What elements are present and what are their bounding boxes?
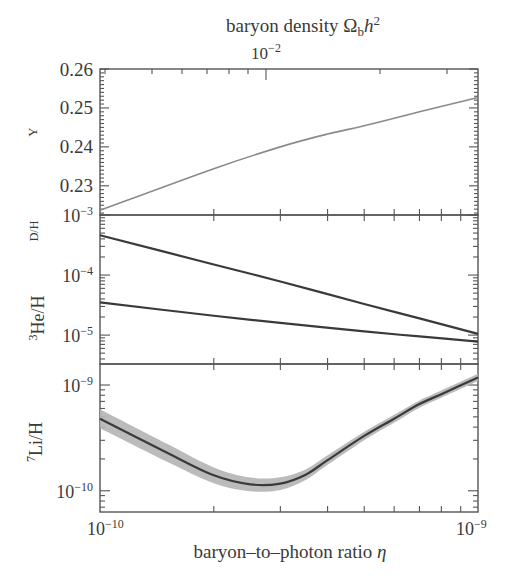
ytick-label: 10−4: [62, 264, 93, 286]
y-axis-label-deuterium: D/H: [27, 220, 41, 241]
xtick-label: 10−9: [456, 517, 487, 539]
y-axis-label-lithium7: 7Li/H: [24, 422, 46, 462]
ytick-label: 10−9: [62, 374, 93, 396]
ytick-label: 0.23: [60, 175, 93, 196]
top-axis-title: baryon density Ωbh2: [226, 13, 380, 39]
ytick-label: 0.24: [60, 136, 94, 157]
xtick-labels: 10−10 10−9: [87, 517, 487, 539]
helium-panel-frame: [100, 69, 478, 215]
deuterium-panel-frame: [100, 215, 478, 364]
lithium-ytick-labels: 10−9 10−10: [56, 374, 93, 502]
ytick-label: 0.26: [60, 59, 93, 80]
top-axis-tick-label: 10−2: [251, 41, 281, 63]
y-axis-label-helium: Y: [25, 127, 40, 137]
data-curves: [100, 97, 478, 491]
xtick-label: 10−10: [87, 517, 124, 539]
series-line-y: [100, 97, 478, 210]
ytick-label: 10−10: [56, 480, 93, 502]
ytick-label: 0.25: [60, 97, 93, 118]
ytick-label: 10−5: [62, 324, 93, 346]
deuterium-ytick-labels: 10−3 10−4 10−5: [62, 204, 93, 346]
ytick-label: 10−3: [62, 204, 93, 226]
lithium-panel-frame: [100, 364, 478, 512]
series-line-lih: [100, 377, 478, 485]
series-line-dh: [100, 235, 478, 334]
x-axis-label: baryon–to–photon ratio η: [193, 541, 386, 562]
bbn-abundance-figure: baryon density Ωbh2 10−2 0.26 0.25 0.24 …: [0, 0, 511, 578]
y-axis-label-helium3: 3He/H: [26, 296, 48, 341]
helium-ytick-labels: 0.26 0.25 0.24 0.23: [60, 59, 94, 196]
uncertainty-band: [100, 374, 478, 492]
series-line-heh: [100, 302, 478, 341]
